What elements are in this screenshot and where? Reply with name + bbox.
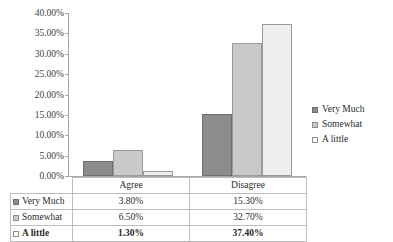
y-axis-line xyxy=(68,13,69,177)
bar-agree-a-little xyxy=(143,171,173,176)
table-row-label: Very Much xyxy=(22,196,64,207)
cut-off-chart-title xyxy=(74,0,264,5)
legend-swatch-icon xyxy=(312,107,318,113)
legend-swatch-icon xyxy=(312,137,318,143)
legend-item: Very Much xyxy=(312,102,393,117)
table-row-label: A little xyxy=(22,228,49,239)
table-cell: 1.30% xyxy=(73,226,190,242)
y-axis-tick xyxy=(65,156,68,157)
chart-legend: Very MuchSomewhatA little xyxy=(312,102,393,147)
table-cell: 6.50% xyxy=(73,210,190,226)
y-axis-label: 5.00% xyxy=(0,151,64,161)
table-row: Very Much3.80%15.30% xyxy=(11,194,307,210)
legend-swatch-icon xyxy=(312,122,318,128)
bar-disagree-a-little xyxy=(262,24,292,176)
legend-item-label: A little xyxy=(322,134,348,145)
bar-agree-somewhat xyxy=(113,150,143,176)
table-row-header: Very Much xyxy=(11,194,73,210)
legend-item-label: Somewhat xyxy=(322,119,362,130)
legend-item: Somewhat xyxy=(312,117,393,132)
y-axis-label: 35.00% xyxy=(0,28,64,38)
table-row-swatch-icon xyxy=(13,199,19,205)
table-row-swatch-icon xyxy=(13,215,19,221)
y-axis-tick xyxy=(65,33,68,34)
y-axis-label: 30.00% xyxy=(0,49,64,59)
table-column-header: Agree xyxy=(73,178,190,194)
y-axis-tick xyxy=(65,135,68,136)
bar-agree-very-much xyxy=(83,161,113,176)
y-axis-tick xyxy=(65,54,68,55)
bar-disagree-somewhat xyxy=(232,43,262,176)
table-cell: 32.70% xyxy=(190,210,307,226)
table-row: Somewhat6.50%32.70% xyxy=(11,210,307,226)
table-header-row: AgreeDisagree xyxy=(11,178,307,194)
table-row-label: Somewhat xyxy=(22,212,62,223)
bar-disagree-very-much xyxy=(202,114,232,176)
chart-data-table: AgreeDisagreeVery Much3.80%15.30%Somewha… xyxy=(10,177,307,242)
y-axis-tick xyxy=(65,95,68,96)
table-column-header: Disagree xyxy=(190,178,307,194)
legend-item-label: Very Much xyxy=(322,104,364,115)
legend-item: A little xyxy=(312,132,393,147)
y-axis-label: 40.00% xyxy=(0,8,64,18)
table-row-header: A little xyxy=(11,226,73,242)
table-cell: 15.30% xyxy=(190,194,307,210)
y-axis-label: 10.00% xyxy=(0,130,64,140)
table-row-header: Somewhat xyxy=(11,210,73,226)
y-axis-label: 20.00% xyxy=(0,90,64,100)
table-cell: 3.80% xyxy=(73,194,190,210)
table-corner-cell xyxy=(11,178,73,194)
plot-area xyxy=(68,13,306,177)
y-axis-tick xyxy=(65,74,68,75)
y-axis-label: 25.00% xyxy=(0,69,64,79)
table-cell: 37.40% xyxy=(190,226,307,242)
table-row-swatch-icon xyxy=(13,231,19,237)
y-axis-tick xyxy=(65,115,68,116)
y-axis-tick xyxy=(65,13,68,14)
y-axis-tick-labels: 40.00%35.00%30.00%25.00%20.00%15.00%10.0… xyxy=(0,13,64,177)
table-row: A little1.30%37.40% xyxy=(11,226,307,242)
y-axis-label: 15.00% xyxy=(0,110,64,120)
